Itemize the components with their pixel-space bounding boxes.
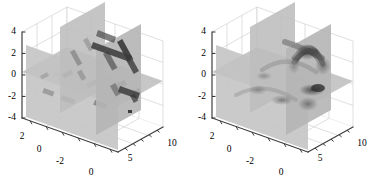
- left-ytick-2: 2: [20, 132, 25, 142]
- right-xtick-0: 0: [279, 168, 284, 178]
- left-ytick-0: 0: [37, 145, 42, 155]
- left-xtick-10: 10: [167, 139, 177, 149]
- right-ztick-2: 2: [201, 49, 206, 59]
- left-ytick-m2: -2: [56, 157, 64, 167]
- left-ztick-4: 4: [11, 27, 16, 37]
- left-ztick-m2: -2: [8, 92, 16, 102]
- right-axes: [190, 0, 380, 185]
- left-plot: 4 2 0 -2 -4 2 0 -2 0 5 10: [0, 0, 190, 185]
- right-xtick-10: 10: [357, 139, 367, 149]
- figure-canvas: 4 2 0 -2 -4 2 0 -2 0 5 10: [0, 0, 380, 185]
- left-ztick-0: 0: [11, 70, 16, 80]
- left-xtick-0: 0: [89, 168, 94, 178]
- right-ytick-2: 2: [210, 132, 215, 142]
- left-ztick-2: 2: [11, 49, 16, 59]
- right-plot: 4 2 0 -2 -4 2 0 -2 0 5 10: [190, 0, 380, 185]
- right-ytick-0: 0: [227, 145, 232, 155]
- right-ztick-m2: -2: [198, 92, 206, 102]
- right-ztick-4: 4: [201, 27, 206, 37]
- left-ztick-m4: -4: [8, 113, 16, 123]
- left-xtick-5: 5: [128, 154, 133, 164]
- right-ztick-0: 0: [201, 70, 206, 80]
- right-xtick-5: 5: [318, 154, 323, 164]
- right-ytick-m2: -2: [246, 157, 254, 167]
- left-axes: [0, 0, 190, 185]
- right-ztick-m4: -4: [198, 113, 206, 123]
